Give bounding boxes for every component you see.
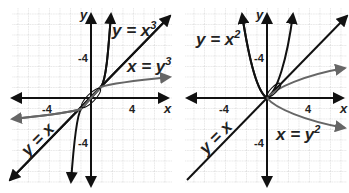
label-x-eq-y-cubed: x = y3 — [126, 55, 171, 76]
tick-x-pos: 4 — [129, 103, 136, 115]
tick-y-lower: -4 — [254, 137, 265, 149]
label-y-eq-x-cubed: y = x3 — [111, 19, 156, 40]
x-axis-label: x — [339, 101, 348, 116]
x-axis-label: x — [163, 101, 172, 116]
label-x-eq-y-squared: x = y2 — [275, 123, 320, 144]
y-axis-label: y — [79, 7, 88, 22]
y-axis-label: y — [255, 7, 264, 22]
tick-y-upper: -4 — [254, 52, 265, 64]
tick-y-lower: -4 — [78, 137, 89, 149]
tick-x-neg: -4 — [42, 103, 53, 115]
tick-x-neg: -4 — [219, 103, 230, 115]
label-y-eq-x-squared: y = x2 — [195, 28, 240, 49]
tick-x-pos: 4 — [305, 103, 312, 115]
graph-right: -4 4 -4 -4 x y y = x2 x = y2 y = x — [175, 0, 349, 193]
graph-left: -4 4 -4 -4 x y y = x3 x = y3 y = x — [0, 0, 175, 193]
tick-y-upper: -4 — [78, 52, 89, 64]
